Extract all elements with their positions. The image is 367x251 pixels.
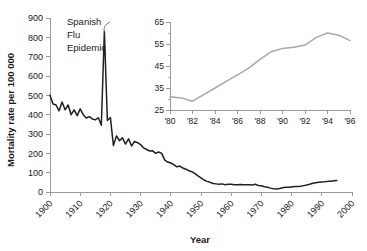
annotation-leader-line: [104, 22, 110, 32]
x-tick-label: 1970: [245, 198, 266, 219]
x-tick-label: 2000: [335, 198, 356, 219]
x-tick-label: 1910: [63, 198, 84, 219]
inset-x-tick-label: '88: [254, 116, 265, 126]
y-tick-label: 0: [38, 187, 43, 197]
main-y-ticks: [46, 18, 50, 192]
x-tick-label: 1920: [94, 198, 115, 219]
x-tick-label: 1930: [124, 198, 145, 219]
mortality-rate-chart: 0100200300400500600700800900 19001910192…: [0, 0, 367, 251]
main-x-tick-labels: 1900191019201930194019501960197019801990…: [33, 198, 356, 219]
inset-x-tick-label: '86: [232, 116, 243, 126]
x-tick-label: 1990: [305, 198, 326, 219]
y-axis-title: Mortality rate per 100 000: [5, 53, 16, 167]
inset-x-tick-label: '96: [344, 116, 355, 126]
y-tick-label: 500: [28, 91, 43, 101]
x-tick-label: 1960: [214, 198, 235, 219]
inset-y-tick-label: 45: [155, 61, 165, 71]
annotation-line-2: Flu: [67, 29, 80, 40]
inset-y-tick-labels: 2535455565: [155, 17, 165, 115]
inset-x-tick-label: '84: [209, 116, 220, 126]
inset-x-tick-label: '82: [187, 116, 198, 126]
y-tick-label: 300: [28, 129, 43, 139]
inset-x-tick-label: '94: [322, 116, 333, 126]
y-tick-label: 900: [28, 13, 43, 23]
x-axis-title: Year: [190, 234, 210, 245]
inset-x-tick-labels: '80'82'84'86'88'90'92'94'96: [164, 116, 355, 126]
inset-y-tick-label: 35: [155, 83, 165, 93]
main-y-tick-labels: 0100200300400500600700800900: [28, 13, 43, 197]
main-x-ticks: [50, 192, 352, 196]
inset-x-ticks: [170, 110, 350, 114]
inset-y-tick-label: 25: [155, 105, 165, 115]
inset-chart: 2535455565 '80'82'84'86'88'90'92'94'96: [155, 17, 356, 126]
y-tick-label: 700: [28, 52, 43, 62]
y-tick-label: 600: [28, 71, 43, 81]
x-tick-label: 1940: [154, 198, 175, 219]
x-tick-label: 1980: [275, 198, 296, 219]
x-tick-label: 1900: [33, 198, 54, 219]
y-tick-label: 400: [28, 110, 43, 120]
x-tick-label: 1950: [184, 198, 205, 219]
inset-y-tick-label: 65: [155, 17, 165, 27]
inset-x-tick-label: '90: [277, 116, 288, 126]
inset-x-tick-label: '92: [299, 116, 310, 126]
y-tick-label: 200: [28, 149, 43, 159]
y-tick-label: 100: [28, 168, 43, 178]
inset-x-tick-label: '80: [164, 116, 175, 126]
annotation-line-3: Epidemic: [67, 42, 106, 53]
inset-y-tick-label: 55: [155, 39, 165, 49]
figure-container: 0100200300400500600700800900 19001910192…: [0, 0, 367, 251]
annotation-line-1: Spanish: [67, 16, 101, 27]
y-tick-label: 800: [28, 33, 43, 43]
inset-trend-line: [170, 33, 350, 101]
